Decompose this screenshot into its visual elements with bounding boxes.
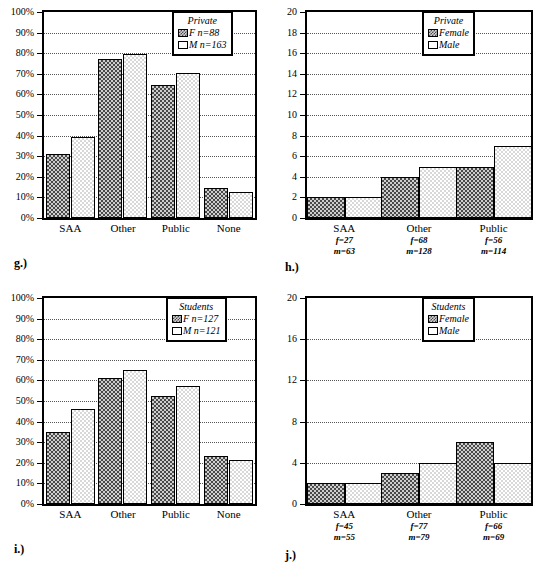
y-tick-label: 10% [0,192,34,202]
legend-h: Private Female Male [422,11,475,56]
y-tick-mark [37,94,42,95]
y-tick-mark [300,298,305,299]
bar-female-saa [307,483,345,504]
y-tick-mark [37,504,42,505]
bar-male-saa [345,483,383,504]
bar-male-saa [71,409,95,504]
legend-swatch-female-icon [178,29,188,37]
y-tick-label: 70% [0,355,34,365]
legend-swatch-male-icon [428,327,438,335]
y-tick-mark [37,115,42,116]
y-tick-label: 40% [0,417,34,427]
x-tick-label: Otherf=68m=128 [382,222,457,257]
legend-row-male-g: M n=163 [178,39,227,51]
x-tick-label: Other [97,222,150,235]
x-tick-label: Publicf=56m=114 [456,222,531,257]
legend-label-female-j: Female [439,313,469,325]
x-tick-category: Public [456,222,531,235]
bar-male-public [176,73,200,218]
y-tick-mark [37,483,42,484]
y-tick-label: 60% [0,375,34,385]
legend-swatch-male-icon [428,41,438,49]
y-tick-mark [37,136,42,137]
bar-female-other [381,177,419,218]
bar-female-public [456,167,494,219]
y-tick-mark [300,94,305,95]
bar-male-other [123,370,147,504]
legend-label-male-g: M n=163 [189,39,227,51]
bars-j [307,298,531,504]
y-tick-label: 2 [277,192,297,202]
y-tick-mark [37,339,42,340]
legend-title-g: Private [178,15,227,27]
panel-caption-j: j.) [285,548,296,562]
legend-row-female-g: F n=88 [178,27,227,39]
y-tick-label: 12 [277,375,297,385]
y-tick-label: 4 [277,458,297,468]
y-tick-label: 0 [277,213,297,223]
bar-male-public [494,146,532,218]
legend-label-female-i: F n=127 [183,313,218,325]
legend-g: Private F n=88 M n=163 [172,11,233,56]
bar-female-saa [307,197,345,218]
bar-female-public [151,396,175,504]
y-tick-label: 50% [0,396,34,406]
x-tick-category: None [202,508,255,521]
x-tick-category: Public [150,508,203,521]
y-tick-mark [300,53,305,54]
x-tick-category: SAA [307,222,382,235]
y-tick-mark [37,53,42,54]
legend-row-male-i: M n=121 [172,325,221,337]
bar-female-public [456,442,494,504]
panel-caption-g: g.) [14,256,27,270]
x-tick-category: Public [150,222,203,235]
y-tick-label: 90% [0,314,34,324]
x-tick-label: Public [150,508,203,521]
y-tick-label: 20% [0,172,34,182]
y-tick-mark [37,177,42,178]
y-tick-label: 8 [277,417,297,427]
y-tick-label: 4 [277,172,297,182]
x-tick-category: None [202,222,255,235]
x-tick-category: SAA [44,222,97,235]
x-tick-male-count: m=128 [382,246,457,257]
y-tick-label: 12 [277,89,297,99]
legend-row-male-h: Male [428,39,469,51]
bar-female-saa [46,432,70,504]
y-tick-label: 50% [0,110,34,120]
x-tick-label: SAAf=27m=63 [307,222,382,257]
legend-title-h: Private [428,15,469,27]
y-tick-mark [300,339,305,340]
legend-swatch-female-icon [428,29,438,37]
legend-row-female-h: Female [428,27,469,39]
x-tick-male-count: m=55 [307,532,382,543]
x-tick-label: Other [97,508,150,521]
bar-female-other [98,378,122,504]
x-tick-female-count: f=56 [456,235,531,246]
x-tick-female-count: f=68 [382,235,457,246]
bar-female-none [204,456,228,504]
bar-male-public [176,386,200,504]
legend-row-female-i: F n=127 [172,313,221,325]
y-tick-label: 40% [0,131,34,141]
x-tick-label: None [202,222,255,235]
y-tick-mark [37,218,42,219]
bar-female-saa [46,154,70,218]
panel-caption-i: i.) [14,542,24,556]
y-tick-label: 14 [277,69,297,79]
x-tick-category: Other [382,508,457,521]
y-tick-label: 0% [0,499,34,509]
y-tick-label: 80% [0,48,34,58]
x-tick-female-count: f=77 [382,521,457,532]
y-tick-mark [37,422,42,423]
legend-swatch-female-icon [172,315,182,323]
x-tick-male-count: m=114 [456,246,531,257]
y-tick-label: 16 [277,334,297,344]
x-tick-label: Public [150,222,203,235]
legend-row-male-j: Male [428,325,469,337]
y-tick-mark [300,33,305,34]
y-tick-mark [300,156,305,157]
bar-male-public [494,463,532,504]
legend-swatch-female-icon [428,315,438,323]
chart-panel-j: 048121620 SAAf=45m=55Otherf=77m=79Public… [277,286,555,572]
